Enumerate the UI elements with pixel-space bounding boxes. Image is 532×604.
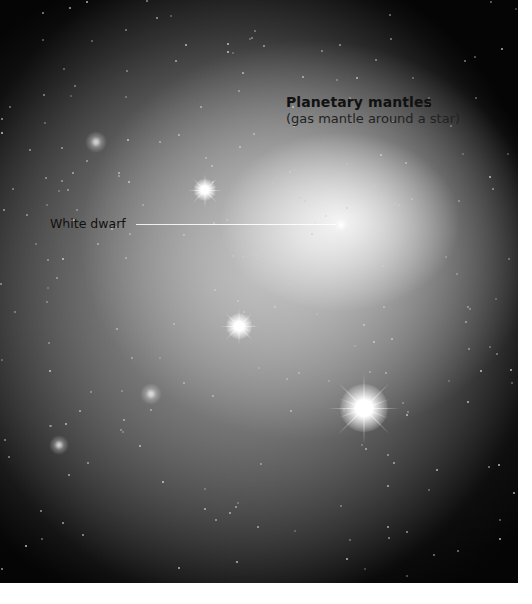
background-star-icon [293, 169, 295, 171]
background-star-icon [232, 52, 234, 54]
background-star-icon [1, 359, 3, 361]
background-star-icon [116, 328, 118, 330]
background-star-icon [294, 530, 296, 532]
background-star-icon [304, 200, 306, 202]
background-star-icon [183, 234, 185, 236]
background-star-icon [341, 285, 343, 287]
background-star-icon [364, 568, 366, 570]
background-star-icon [4, 439, 6, 441]
background-star-icon [238, 90, 240, 92]
background-star-icon [480, 370, 482, 372]
background-star-icon [289, 283, 291, 285]
background-star-icon [125, 96, 127, 98]
background-star-icon [56, 277, 58, 279]
background-star-icon [369, 371, 371, 373]
background-star-icon [175, 60, 177, 62]
background-star-icon [44, 122, 46, 124]
background-star-icon [150, 409, 152, 411]
background-star-icon [325, 215, 327, 217]
background-star-icon [499, 538, 501, 540]
background-star-icon [170, 15, 172, 17]
background-star-icon [260, 463, 262, 465]
background-star-icon [41, 538, 43, 540]
background-star-icon [122, 431, 124, 433]
background-star-icon [211, 165, 213, 167]
background-star-icon [46, 204, 48, 206]
background-star-icon [407, 411, 409, 413]
background-star-icon [90, 391, 92, 393]
background-star-icon [311, 233, 313, 235]
background-star-icon [239, 146, 241, 148]
background-star-icon [3, 209, 5, 211]
background-star-icon [257, 526, 259, 528]
background-star-icon [391, 338, 393, 340]
background-star-icon [47, 259, 49, 261]
background-star-icon [263, 240, 265, 242]
background-star-icon [448, 380, 450, 382]
background-star-icon [436, 469, 438, 471]
background-star-icon [67, 189, 69, 191]
background-star-icon [0, 283, 2, 285]
background-star-icon [316, 313, 318, 315]
background-star-icon [62, 258, 64, 260]
background-star-icon [289, 171, 291, 173]
background-star-icon [346, 558, 348, 560]
background-star-icon [356, 77, 358, 79]
background-star-icon [411, 198, 413, 200]
background-star-icon [243, 311, 245, 313]
background-star-icon [406, 414, 408, 416]
background-star-icon [142, 204, 144, 206]
background-star-icon [127, 139, 129, 141]
white-dwarf-leader-line [136, 224, 336, 225]
background-star-icon [61, 147, 63, 149]
background-star-icon [467, 401, 469, 403]
background-star-icon [456, 273, 458, 275]
background-star-icon [76, 209, 78, 211]
background-star-icon [118, 175, 120, 177]
background-star-icon [489, 176, 491, 178]
background-star-icon [87, 462, 89, 464]
star-upper-left-icon [85, 131, 107, 153]
background-star-icon [433, 554, 435, 556]
background-star-icon [475, 97, 477, 99]
background-star-icon [458, 200, 460, 202]
background-star-icon [1, 132, 3, 134]
planetary-nebula-cloud [0, 0, 518, 583]
background-star-icon [12, 188, 14, 190]
background-star-icon [178, 567, 180, 569]
background-star-icon [156, 17, 158, 19]
background-star-icon [258, 367, 260, 369]
background-star-icon [412, 77, 414, 79]
background-star-icon [205, 157, 207, 159]
background-star-icon [385, 372, 387, 374]
background-star-icon [126, 70, 128, 72]
background-star-icon [383, 306, 385, 308]
background-star-icon [226, 219, 228, 221]
background-star-icon [173, 323, 175, 325]
background-star-icon [227, 51, 229, 53]
background-star-icon [14, 311, 16, 313]
background-star-icon [25, 545, 27, 547]
background-star-icon [97, 243, 99, 245]
star-lower-left-icon [140, 383, 162, 405]
background-star-icon [501, 48, 503, 50]
background-star-icon [490, 1, 492, 3]
background-star-icon [462, 153, 464, 155]
background-star-icon [74, 85, 76, 87]
background-star-icon [72, 172, 74, 174]
white-dwarf-label: White dwarf [50, 216, 126, 231]
background-star-icon [35, 243, 37, 245]
background-star-icon [302, 76, 304, 78]
background-star-icon [212, 395, 214, 397]
background-star-icon [274, 306, 276, 308]
background-star-icon [48, 342, 50, 344]
background-star-icon [508, 258, 510, 260]
background-star-icon [91, 40, 93, 42]
background-star-icon [125, 29, 127, 31]
background-star-icon [215, 519, 217, 521]
background-star-icon [488, 466, 490, 468]
background-star-icon [232, 255, 234, 257]
background-star-icon [249, 38, 251, 40]
background-star-icon [58, 190, 60, 192]
star-far-lower-left-icon [49, 435, 69, 455]
